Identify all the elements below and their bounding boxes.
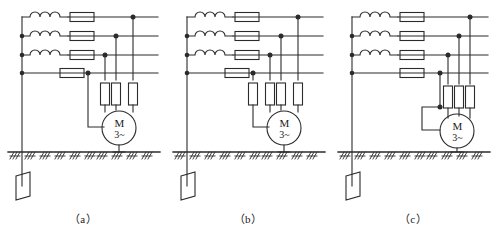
junction-dot-group-drops-c bbox=[438, 15, 473, 76]
schematic-svg-b bbox=[165, 0, 331, 232]
vertical-fuse-group-a bbox=[101, 83, 138, 105]
junction-dot bbox=[185, 71, 190, 76]
caption-b: （b） bbox=[165, 210, 331, 226]
winding-l3-c bbox=[352, 50, 398, 55]
winding-l1-b bbox=[187, 12, 233, 17]
junction-dot bbox=[350, 34, 355, 39]
motor-circle-c bbox=[440, 114, 474, 148]
vfuse-2-a bbox=[112, 83, 121, 105]
junction-dot bbox=[103, 53, 108, 58]
junction-dot bbox=[185, 34, 190, 39]
junction-dot bbox=[114, 34, 119, 39]
junction-dot bbox=[468, 15, 473, 20]
vertical-fuse-group-b bbox=[249, 83, 303, 105]
neutral-to-motor-a bbox=[88, 73, 104, 127]
junction-dot-group-drops-a bbox=[86, 15, 136, 76]
winding-l3-b bbox=[187, 50, 233, 55]
horizontal-fuse-group-b bbox=[225, 13, 259, 78]
circuit-diagram-a: （a） bbox=[0, 0, 166, 232]
winding-l1-a bbox=[22, 12, 68, 17]
figure-canvas: （a） bbox=[0, 0, 496, 232]
motor-earth-stub-b bbox=[278, 145, 290, 152]
junction-dot-group-drops-b bbox=[251, 15, 301, 76]
junction-dot bbox=[20, 71, 25, 76]
junction-dot bbox=[279, 34, 284, 39]
schematic-svg-c bbox=[330, 0, 496, 232]
winding-l3-a bbox=[22, 50, 68, 55]
vfuse-2-b bbox=[277, 83, 286, 105]
earth-electrode-c bbox=[346, 172, 360, 200]
ground-hatch-b bbox=[175, 152, 317, 159]
neutral-bracket-c bbox=[422, 107, 440, 130]
vfuse-3-a bbox=[129, 83, 138, 105]
junction-dot bbox=[446, 53, 451, 58]
neutral-to-motor-b bbox=[253, 105, 269, 127]
winding-group-a bbox=[22, 12, 68, 55]
ground-hatch-c bbox=[340, 152, 482, 159]
winding-group-c bbox=[352, 12, 398, 55]
junction-dot bbox=[296, 15, 301, 20]
winding-l1-c bbox=[352, 12, 398, 17]
vfuse-3-b bbox=[294, 83, 303, 105]
horizontal-fuse-group-a bbox=[60, 13, 94, 78]
earth-electrode-a bbox=[16, 172, 30, 200]
junction-dot bbox=[251, 71, 256, 76]
ground-hatch-a bbox=[10, 152, 152, 159]
vfuse-n-b bbox=[249, 83, 258, 105]
winding-l2-b bbox=[187, 31, 233, 36]
vfuse-3-c bbox=[466, 86, 475, 108]
junction-dot bbox=[350, 71, 355, 76]
junction-dot bbox=[268, 53, 273, 58]
motor-circle-a bbox=[102, 111, 136, 145]
vertical-fuse-group-c bbox=[444, 86, 475, 108]
junction-dot bbox=[20, 53, 25, 58]
circuit-diagram-b: （b） bbox=[165, 0, 331, 232]
earth-electrode-b bbox=[181, 172, 195, 200]
schematic-svg-a bbox=[0, 0, 166, 232]
vfuse-1-c bbox=[444, 86, 453, 108]
junction-dot bbox=[20, 34, 25, 39]
motor-circle-b bbox=[267, 111, 301, 145]
junction-dot bbox=[131, 15, 136, 20]
junction-dot bbox=[185, 53, 190, 58]
circuit-diagram-c: （c） bbox=[330, 0, 496, 232]
caption-c: （c） bbox=[330, 210, 496, 226]
vfuse-2-c bbox=[455, 86, 464, 108]
horizontal-fuse-group-c bbox=[400, 13, 424, 78]
caption-a: （a） bbox=[0, 210, 166, 226]
vfuse-1-a bbox=[101, 83, 110, 105]
winding-l2-a bbox=[22, 31, 68, 36]
winding-group-b bbox=[187, 12, 233, 55]
junction-dot bbox=[457, 34, 462, 39]
vfuse-1-b bbox=[266, 83, 275, 105]
motor-earth-stub-a bbox=[113, 145, 125, 152]
junction-dot bbox=[350, 53, 355, 58]
winding-l2-c bbox=[352, 31, 398, 36]
